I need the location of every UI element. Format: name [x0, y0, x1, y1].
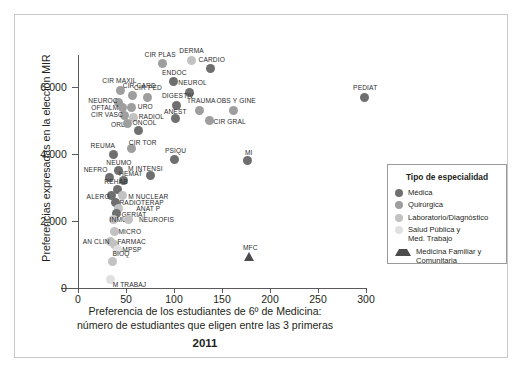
data-point-label: NEUROFIS [139, 216, 174, 223]
y-tick-label: 6.000 [5, 81, 67, 93]
y-axis-line [78, 55, 79, 288]
data-point-label: CIR VASC [91, 111, 123, 118]
x-tick-label: 150 [202, 293, 242, 305]
data-point-label: FARMAC [117, 238, 145, 245]
y-tick [72, 87, 78, 88]
data-point-label: HEMAT [119, 170, 142, 177]
data-point[interactable] [229, 106, 238, 115]
legend-item-label: Medicina Familiar yComunitaria [416, 247, 481, 265]
data-point-label: BIOQ [113, 250, 130, 257]
data-point[interactable] [171, 114, 180, 123]
data-point[interactable] [143, 93, 152, 102]
legend-item[interactable]: Médica [395, 188, 506, 197]
y-tick [72, 154, 78, 155]
y-tick [72, 221, 78, 222]
data-point[interactable] [243, 156, 252, 165]
x-tick-label: 100 [154, 293, 194, 305]
chart-year: 2011 [40, 337, 370, 349]
circle-marker-icon [395, 189, 403, 197]
x-axis-title-line2: número de estudiantes que eligen entre l… [40, 319, 370, 333]
x-axis-title: Preferencia de los estudiantes de 6º de … [40, 305, 370, 332]
data-point-label: PSIQU [165, 147, 186, 154]
data-point-label: REHAB [104, 178, 127, 185]
data-point-label: NEFRO [84, 166, 108, 173]
legend-item[interactable]: Quirúrgica [395, 200, 506, 209]
legend-item[interactable]: Salud Pública yMed. Trabajo [395, 225, 506, 243]
legend-item[interactable]: Medicina Familiar yComunitaria [395, 247, 506, 265]
x-tick-label: 250 [298, 293, 338, 305]
data-point-label: OFTALM [91, 104, 118, 111]
data-point[interactable] [360, 93, 369, 102]
data-point[interactable] [134, 126, 143, 135]
data-point-label: URO [138, 103, 153, 110]
data-point-label: ANEST [164, 108, 187, 115]
data-point[interactable] [108, 257, 117, 266]
data-point[interactable] [146, 171, 155, 180]
y-tick-label: 2.000 [5, 215, 67, 227]
x-tick-label: 300 [346, 293, 386, 305]
data-point[interactable] [244, 252, 254, 261]
legend-item[interactable]: Laboratorio/Diagnóstico [395, 213, 506, 222]
data-point-label: CARDIO [198, 56, 225, 63]
data-point[interactable] [170, 155, 179, 164]
data-point-label: ALERG [87, 193, 110, 200]
data-point-label: MICRO [118, 228, 141, 235]
data-point-label: ORL [111, 121, 125, 128]
data-point[interactable] [206, 64, 215, 73]
legend-box: Tipo de especialidad MédicaQuirúrgicaLab… [387, 164, 507, 264]
legend-item-label: Laboratorio/Diagnóstico [408, 213, 488, 222]
circle-marker-icon [395, 214, 403, 222]
circle-marker-icon [395, 226, 403, 234]
data-point-label: TRAUMA [187, 97, 216, 104]
data-point[interactable] [158, 59, 167, 68]
data-point-label: REUMA [91, 142, 116, 149]
data-point[interactable] [124, 215, 133, 224]
data-point-label: DERMA [179, 47, 204, 54]
data-point[interactable] [109, 150, 118, 159]
legend-item-label: Médica [408, 188, 432, 197]
data-point-label: OBS Y GINE [217, 97, 256, 104]
y-tick-label: 4.000 [5, 148, 67, 160]
data-point-label: M TRABAJ [113, 281, 147, 288]
data-point-label: AN CLIN [83, 238, 110, 245]
legend-item-label: Salud Pública yMed. Trabajo [408, 225, 460, 243]
data-point-label: MFC [243, 244, 258, 251]
data-point-label: ONCOL [132, 119, 156, 126]
data-point-label: CIR PLAS [144, 51, 175, 58]
data-point[interactable] [195, 106, 204, 115]
x-axis-title-line1: Preferencia de los estudiantes de 6º de … [40, 305, 370, 319]
data-point-label: CIR GRAL [214, 118, 246, 125]
x-tick-label: 0 [58, 293, 98, 305]
data-point[interactable] [127, 103, 136, 112]
data-point[interactable] [128, 91, 137, 100]
legend-items: MédicaQuirúrgicaLaboratorio/DiagnósticoS… [388, 188, 506, 265]
x-tick-label: 50 [106, 293, 146, 305]
data-point-label: PEDIAT [353, 84, 377, 91]
chart-page: Preferencias expresadas en la elección M… [0, 0, 521, 375]
legend-item-label: Quirúrgica [408, 200, 443, 209]
data-point-label: ENDOC [162, 69, 187, 76]
data-point-label: CIR PED [134, 84, 162, 91]
data-point[interactable] [187, 56, 196, 65]
data-point-label: NEUROL [178, 79, 206, 86]
data-point-label: CIR TOR [129, 139, 157, 146]
legend-title: Tipo de especialidad [388, 172, 506, 182]
data-point-label: MI [245, 149, 253, 156]
data-point[interactable] [169, 77, 178, 86]
x-tick-label: 200 [250, 293, 290, 305]
triangle-marker-icon [395, 249, 411, 256]
x-axis-line [61, 288, 366, 289]
circle-marker-icon [395, 201, 403, 209]
